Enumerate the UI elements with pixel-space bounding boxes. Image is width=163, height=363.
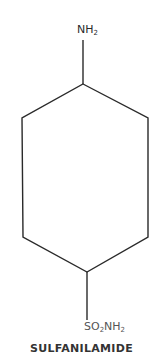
hexagon-ring — [22, 84, 148, 272]
amino-main: NH — [77, 23, 94, 36]
sulfonamide-sub2: 2 — [121, 326, 125, 334]
sulfonamide-part2: NH — [104, 320, 121, 333]
compound-name-caption: SULFANILAMIDE — [0, 342, 163, 355]
amino-subscript: 2 — [94, 29, 98, 37]
benzene-ring-diagram — [0, 0, 163, 363]
sulfonamide-group-label: SO2NH2 — [84, 320, 125, 333]
sulfonamide-sub1: 2 — [100, 326, 104, 334]
sulfonamide-part1: SO — [84, 320, 100, 333]
amino-group-label: NH2 — [77, 23, 98, 36]
